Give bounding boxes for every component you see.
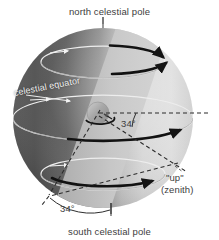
axis-stub-lower-left	[42, 196, 49, 205]
celestial-sphere-diagram: north celestial pole south celestial pol…	[0, 0, 219, 240]
label-angle-latitude-mid: 34°	[121, 118, 136, 129]
label-south-celestial-pole: south celestial pole	[68, 226, 151, 237]
label-zenith: (zenith)	[161, 184, 193, 195]
label-up: "up"	[166, 172, 184, 183]
diagram-canvas	[0, 0, 219, 240]
label-angle-latitude-bottom: 34°	[60, 203, 75, 214]
label-north-celestial-pole: north celestial pole	[69, 6, 150, 17]
